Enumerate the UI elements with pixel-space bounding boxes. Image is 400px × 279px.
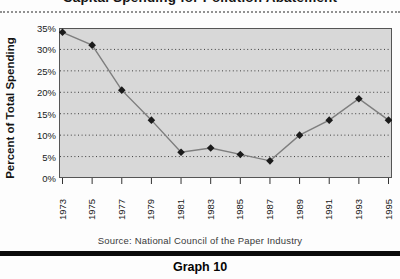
- x-axis-ticks: [63, 178, 389, 184]
- y-tick-label: 25%: [14, 66, 56, 78]
- source-text: Source: National Council of the Paper In…: [0, 235, 400, 246]
- x-tick-label: 1983: [205, 186, 217, 220]
- x-tick-label: 1973: [57, 186, 69, 220]
- y-tick-label: 15%: [14, 109, 56, 121]
- x-tick-label: 1989: [294, 186, 306, 220]
- plot-area: [59, 28, 392, 185]
- y-tick-label: 10%: [14, 130, 56, 142]
- x-tick-label: 1975: [86, 186, 98, 220]
- graph-caption: Graph 10: [0, 260, 400, 274]
- x-tick-label: 1995: [383, 186, 395, 220]
- x-tick-label: 1991: [323, 186, 335, 220]
- plot-background: [60, 29, 392, 178]
- line-chart: Percent of Total Spending 0%5%10%15%20%2…: [0, 0, 400, 232]
- y-tick-label: 0%: [14, 173, 56, 185]
- x-tick-label: 1979: [145, 186, 157, 220]
- page: Capital Spending for Pollution Abatement…: [0, 0, 400, 279]
- y-tick-label: 35%: [14, 23, 56, 35]
- x-tick-label: 1981: [175, 186, 187, 220]
- bottom-rule: [0, 251, 400, 256]
- y-tick-label: 30%: [14, 44, 56, 56]
- y-tick-label: 5%: [14, 152, 56, 164]
- x-tick-label: 1985: [234, 186, 246, 220]
- x-tick-label: 1987: [264, 186, 276, 220]
- x-tick-label: 1993: [353, 186, 365, 220]
- y-tick-label: 20%: [14, 87, 56, 99]
- x-tick-label: 1977: [116, 186, 128, 220]
